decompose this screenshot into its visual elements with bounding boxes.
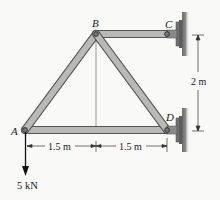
arrow-down-icon xyxy=(22,166,29,176)
horizontal-dimension-label-1: 1.5 m xyxy=(48,141,71,152)
label-a: A xyxy=(10,125,18,137)
label-d: D xyxy=(165,111,174,123)
wall-support-d xyxy=(176,108,189,152)
vertical-dimension-label: 2 m xyxy=(191,76,207,87)
load-arrow xyxy=(22,132,29,176)
wall-support-c xyxy=(176,12,189,56)
pin-b xyxy=(94,32,99,37)
label-c: C xyxy=(165,18,173,30)
truss-diagram: A B C D 2 m 1.5 m 1.5 m xyxy=(0,0,220,200)
horizontal-dimension-label-2: 1.5 m xyxy=(119,141,142,152)
label-b: B xyxy=(92,17,99,29)
pin-d xyxy=(165,128,170,133)
load-label: 5 kN xyxy=(17,180,38,191)
pin-c xyxy=(165,32,170,37)
pin-a xyxy=(23,128,28,133)
